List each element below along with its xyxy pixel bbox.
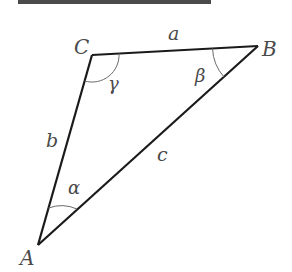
vertex-label-a: A	[18, 246, 34, 270]
angle-label-alpha: α	[68, 177, 80, 198]
vertex-label-b: B	[261, 37, 277, 61]
side-label-c: c	[157, 143, 168, 165]
side-label-a: a	[168, 22, 179, 44]
side-a	[92, 46, 258, 55]
vertex-label-c: C	[74, 35, 89, 59]
side-c	[38, 46, 258, 245]
angle-label-gamma: γ	[108, 73, 119, 94]
angle-label-beta: β	[194, 65, 205, 86]
angle-beta-arc	[213, 49, 225, 78]
angle-alpha-arc	[49, 206, 78, 209]
side-label-b: b	[46, 129, 58, 151]
triangle-diagram: C B A a b c γ β α	[0, 0, 292, 272]
